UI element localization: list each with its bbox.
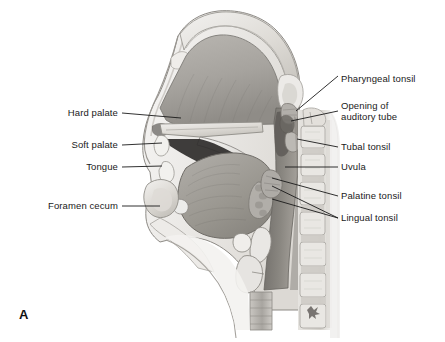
label-opening-of-auditory-tube-line2: auditory tube — [341, 111, 397, 122]
anatomy-illustration — [0, 0, 445, 342]
label-lingual-tonsil: Lingual tonsil — [341, 212, 398, 223]
posterior-neck-group — [330, 110, 340, 338]
label-hard-palate: Hard palate — [68, 107, 118, 118]
panel-letter: A — [19, 307, 28, 322]
anatomy-figure: Hard palate Soft palate Tongue Foramen c… — [0, 0, 445, 342]
posterior-neck-fill — [330, 110, 340, 338]
auditory-tube-opening — [280, 115, 294, 133]
label-foramen-cecum: Foramen cecum — [48, 200, 118, 211]
sphenoid-inner-shade — [282, 83, 297, 106]
label-tubal-tonsil: Tubal tonsil — [341, 141, 390, 152]
label-opening-of-auditory-tube: Opening of auditory tube — [341, 100, 397, 122]
label-pharyngeal-tonsil: Pharyngeal tonsil — [341, 73, 416, 84]
cervical-spine-group — [298, 108, 332, 330]
label-soft-palate: Soft palate — [71, 139, 118, 150]
label-tongue: Tongue — [86, 161, 118, 172]
label-opening-of-auditory-tube-line1: Opening of — [341, 100, 397, 111]
label-uvula: Uvula — [341, 161, 366, 172]
label-palatine-tonsil: Palatine tonsil — [341, 190, 402, 201]
hyoid-bone — [233, 233, 251, 252]
